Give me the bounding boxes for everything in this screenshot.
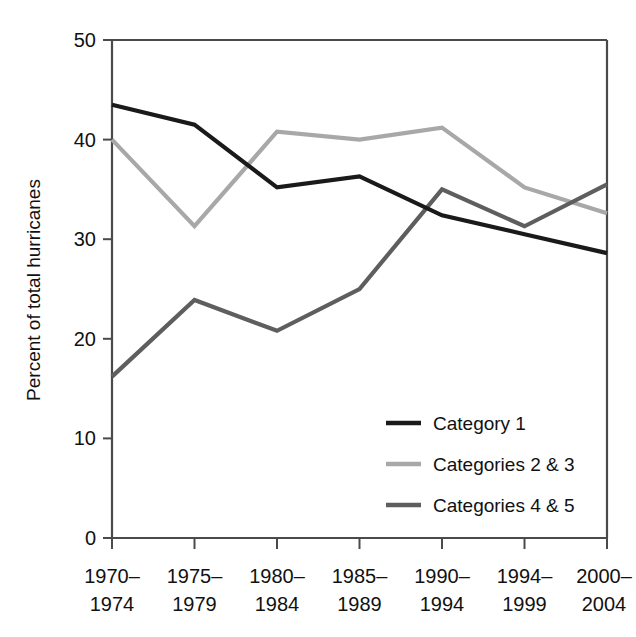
y-axis-ticks (103, 40, 112, 538)
x-tick-label-5-top: 1994– (497, 565, 553, 587)
legend-label-categories-2-3: Categories 2 & 3 (433, 454, 575, 475)
x-tick-label-0-bottom: 1974 (90, 593, 135, 615)
y-tick-label-20: 20 (74, 328, 96, 350)
x-tick-label-1-top: 1975– (167, 565, 223, 587)
data-series-group (112, 105, 607, 377)
x-tick-label-1-bottom: 1979 (172, 593, 217, 615)
x-tick-label-3-top: 1985– (332, 565, 388, 587)
x-tick-label-4-top: 1990– (414, 565, 470, 587)
x-axis-ticks (112, 538, 607, 549)
x-tick-label-0-top: 1970– (84, 565, 140, 587)
x-tick-label-3-bottom: 1989 (337, 593, 382, 615)
x-tick-label-6-bottom: 2004 (582, 593, 627, 615)
y-tick-label-30: 30 (74, 228, 96, 250)
x-tick-label-6-top: 2000– (576, 565, 632, 587)
x-tick-label-2-top: 1980– (249, 565, 305, 587)
legend: Category 1 Categories 2 & 3 Categories 4… (386, 413, 575, 516)
y-tick-label-0: 0 (85, 527, 96, 549)
x-tick-label-5-bottom: 1999 (502, 593, 547, 615)
y-tick-label-50: 50 (74, 29, 96, 51)
legend-label-categories-4-5: Categories 4 & 5 (433, 495, 575, 516)
series-line-category-1 (112, 105, 607, 253)
legend-label-category-1: Category 1 (433, 413, 526, 434)
y-tick-label-10: 10 (74, 427, 96, 449)
x-axis-tick-labels: 1970– 1974 1975– 1979 1980– 1984 1985– 1… (84, 565, 632, 615)
y-axis-tick-labels: 0 10 20 30 40 50 (74, 29, 96, 549)
line-chart: 0 10 20 30 40 50 Percent of total hurric… (0, 0, 636, 637)
y-axis-title: Percent of total hurricanes (23, 179, 44, 401)
x-tick-label-2-bottom: 1984 (255, 593, 300, 615)
series-line-categories-4-5 (112, 184, 607, 376)
hurricane-category-trend-figure: 0 10 20 30 40 50 Percent of total hurric… (0, 0, 636, 637)
y-tick-label-40: 40 (74, 129, 96, 151)
x-tick-label-4-bottom: 1994 (420, 593, 465, 615)
